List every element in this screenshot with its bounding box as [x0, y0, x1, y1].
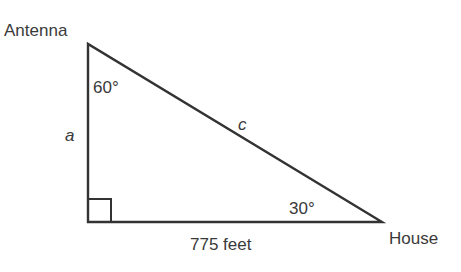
house-label: House [389, 230, 438, 247]
angle-60-label: 60° [93, 79, 119, 96]
side-c-label: c [238, 116, 247, 133]
angle-30-label: 30° [289, 200, 315, 217]
side-a-label: a [65, 127, 74, 144]
base-length-label: 775 feet [190, 236, 251, 253]
triangle [88, 44, 382, 222]
antenna-label: Antenna [4, 22, 67, 39]
right-angle-marker [88, 199, 111, 222]
